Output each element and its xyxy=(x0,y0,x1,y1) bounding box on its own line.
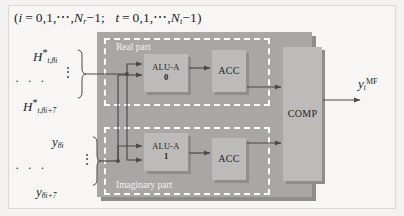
h-last-sub: t,8i+7 xyxy=(38,106,57,115)
y-last-sub: 8i+7 xyxy=(42,191,57,200)
output-label-y-mf: ytMF xyxy=(358,76,378,92)
h-group-vertical-dots: ⋮ xyxy=(62,71,74,74)
y-group-vertical-dots: ⋮ xyxy=(81,158,93,161)
h-first-base: H xyxy=(33,49,42,64)
h-last-base: H xyxy=(23,99,32,114)
input-label-y-first: y8i xyxy=(52,134,64,150)
y-first-sub: 8i xyxy=(58,141,64,150)
input-label-h-last: H*t,8i+7 xyxy=(23,97,56,115)
brace-h-group xyxy=(78,50,86,98)
figure-root: (i = 0,1,⋯,Nr−1; t = 0,1,⋯,Nt−1) Real pa… xyxy=(0,0,404,216)
h-first-sub: t,8i xyxy=(48,56,58,65)
output-sup: MF xyxy=(366,77,378,86)
input-label-y-last: y8i+7 xyxy=(36,184,57,200)
h-group-horizontal-dots: · · · xyxy=(15,73,47,89)
input-label-h-first: H*t,8i xyxy=(33,47,57,65)
y-bus-wire xyxy=(101,75,142,163)
y-group-horizontal-dots: · · · xyxy=(15,160,47,176)
wiring-layer xyxy=(0,0,404,216)
brace-y-group xyxy=(93,137,101,185)
